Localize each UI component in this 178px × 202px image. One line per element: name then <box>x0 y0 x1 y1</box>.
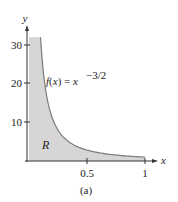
x-tick-label-1: 1 <box>142 167 148 179</box>
chart: 30 20 10 0.5 1 y x f(x) = x −3/2 R (a) <box>0 0 178 202</box>
function-exponent: −3/2 <box>86 69 106 81</box>
x-axis-label: x <box>160 154 166 166</box>
x-axis-arrow-icon <box>152 159 158 163</box>
figure-caption: (a) <box>80 184 93 197</box>
region-label: R <box>41 138 50 152</box>
x-tick-label-0.5: 0.5 <box>80 167 94 179</box>
y-tick-label-20: 20 <box>11 77 23 89</box>
y-axis-label: y <box>22 12 28 24</box>
y-tick-label-10: 10 <box>11 116 23 128</box>
y-axis-arrow-icon <box>25 25 29 31</box>
function-label: f(x) = x <box>46 75 78 88</box>
y-tick-label-30: 30 <box>11 39 23 51</box>
